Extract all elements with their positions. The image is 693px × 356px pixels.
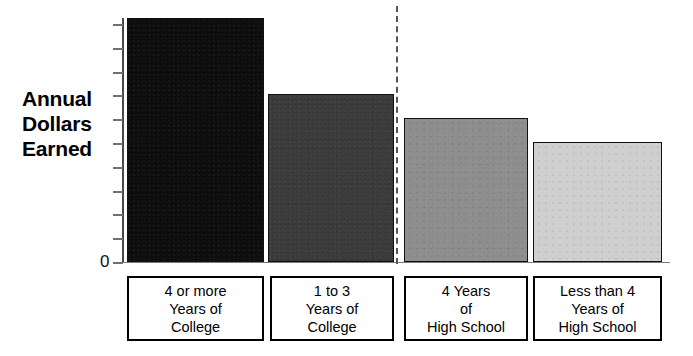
y-axis-tick <box>113 24 123 26</box>
y-axis-tick <box>113 143 123 145</box>
bar-texture <box>405 119 527 261</box>
y-axis-tick <box>113 238 123 240</box>
category-label-line: 4 or more <box>164 282 226 300</box>
category-label-line: 4 Years <box>442 282 490 300</box>
bar-texture <box>269 95 393 261</box>
category-label-line: High School <box>558 318 636 336</box>
category-label-college-1-to-3: 1 to 3Years ofCollege <box>270 276 394 341</box>
y-axis-tick <box>113 48 123 50</box>
category-label-high-school-less-than-4: Less than 4Years ofHigh School <box>533 276 662 341</box>
category-label-line: 1 to 3 <box>314 282 350 300</box>
plot-area: 0 <box>122 18 667 263</box>
category-label-row: 4 or moreYears ofCollege1 to 3Years ofCo… <box>122 276 670 344</box>
y-axis-tick <box>113 262 123 264</box>
category-label-line: College <box>307 318 356 336</box>
y-axis-line <box>122 18 124 263</box>
y-axis-tick <box>113 167 123 169</box>
bar-texture <box>534 143 661 261</box>
category-label-line: Years of <box>571 300 624 318</box>
bar-high-school-less-than-4 <box>533 142 662 262</box>
bar-texture <box>128 19 263 261</box>
category-label-line: Less than 4 <box>560 282 635 300</box>
bar-college-4-or-more <box>127 18 264 262</box>
y-axis-title-line-3: Earned <box>22 136 122 161</box>
y-axis-tick <box>113 191 123 193</box>
y-axis-zero-label: 0 <box>100 252 109 272</box>
y-axis-tick <box>113 72 123 74</box>
category-label-high-school-4-years: 4 YearsofHigh School <box>404 276 528 341</box>
category-label-line: Years of <box>306 300 359 318</box>
y-axis-tick <box>113 95 123 97</box>
bar-college-1-to-3 <box>268 94 394 262</box>
bar-high-school-4-years <box>404 118 528 262</box>
y-axis-title-line-2: Dollars <box>22 111 122 136</box>
category-label-line: High School <box>427 318 505 336</box>
y-axis-tick <box>113 119 123 121</box>
bar-chart: Annual Dollars Earned 0 4 or moreYears o… <box>0 0 693 356</box>
category-label-college-4-or-more: 4 or moreYears ofCollege <box>127 276 264 341</box>
category-label-line: of <box>460 300 472 318</box>
y-axis-tick <box>113 214 123 216</box>
y-axis-title-line-1: Annual <box>22 86 122 111</box>
category-label-line: College <box>171 318 220 336</box>
group-divider-dashed-line <box>396 6 398 264</box>
y-axis-title: Annual Dollars Earned <box>22 86 122 161</box>
category-label-line: Years of <box>169 300 222 318</box>
